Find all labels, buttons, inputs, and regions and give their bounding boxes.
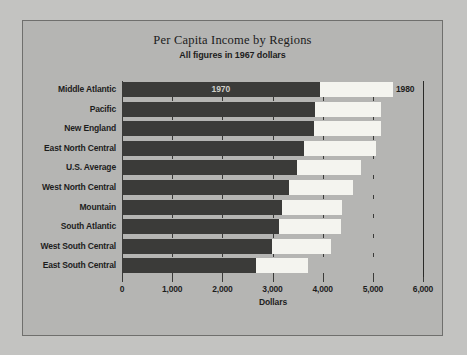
gridline-tick	[373, 214, 374, 218]
page-root: { "chart_data": { "type": "bar", "orient…	[0, 0, 467, 355]
x-tick-label: 5,000	[363, 284, 383, 294]
gridline-tick	[273, 97, 274, 101]
gridline-tick	[323, 214, 324, 218]
gridline-tick	[323, 97, 324, 101]
bar-row: Mountain	[122, 200, 424, 215]
gridline-tick	[172, 234, 173, 238]
gridline-tick	[172, 116, 173, 120]
gridline-tick	[373, 155, 374, 159]
gridline-tick	[273, 234, 274, 238]
bar-1970	[123, 219, 279, 234]
gridline-tick	[172, 136, 173, 140]
x-tick-label: 3,000	[262, 284, 282, 294]
category-label: West South Central	[40, 239, 116, 254]
legend-label-1970: 1970	[212, 82, 231, 97]
gridline-tick	[222, 116, 223, 120]
bar-row: New England	[122, 121, 424, 136]
gridline-tick	[373, 234, 374, 238]
x-axis-title: Dollars	[122, 297, 424, 307]
gridline-tick	[373, 136, 374, 140]
gridline-tick	[222, 136, 223, 140]
gridline-tick	[323, 155, 324, 159]
category-label: U.S. Average	[66, 160, 116, 175]
gridline-tick	[172, 195, 173, 199]
gridline-tick	[273, 116, 274, 120]
gridline-tick	[172, 214, 173, 218]
gridline-tick	[323, 116, 324, 120]
x-tick	[172, 277, 173, 282]
category-label: West North Central	[42, 180, 116, 195]
chart-title: Per Capita Income by Regions	[23, 33, 442, 48]
bar-row: West North Central	[122, 180, 424, 195]
category-label: South Atlantic	[61, 219, 116, 234]
x-tick-label: 6,000	[413, 284, 433, 294]
x-tick	[122, 277, 123, 282]
gridline-tick	[172, 155, 173, 159]
bar-1970	[123, 160, 297, 175]
chart-panel: Per Capita Income by Regions All figures…	[22, 20, 443, 336]
bar-1970	[123, 200, 282, 215]
gridline-tick	[323, 195, 324, 199]
category-label: New England	[64, 121, 116, 136]
gridline-tick	[222, 253, 223, 257]
gridline-tick	[273, 214, 274, 218]
bar-1970	[123, 180, 289, 195]
bar-row: Pacific	[122, 102, 424, 117]
gridline-tick	[222, 234, 223, 238]
bar-row: Middle Atlantic19701980	[122, 82, 424, 97]
gridline-tick	[172, 175, 173, 179]
plot-area: Middle Atlantic19701980PacificNew Englan…	[122, 81, 424, 277]
x-tick-label: 4,000	[313, 284, 333, 294]
category-label: Pacific	[90, 102, 116, 117]
gridline-tick	[373, 253, 374, 257]
gridline-tick	[273, 136, 274, 140]
category-label: East South Central	[43, 258, 116, 273]
category-label: East North Central	[44, 141, 116, 156]
gridline-tick	[222, 97, 223, 101]
gridline-tick	[273, 175, 274, 179]
gridline-tick	[273, 253, 274, 257]
bar-1970	[123, 102, 315, 117]
x-axis: 01,0002,0003,0004,0005,0006,000 Dollars	[122, 277, 424, 327]
gridline-tick	[273, 195, 274, 199]
category-label: Middle Atlantic	[58, 82, 116, 97]
gridline-tick	[222, 175, 223, 179]
x-tick	[323, 277, 324, 282]
bar-row: South Atlantic	[122, 219, 424, 234]
gridline-tick	[172, 253, 173, 257]
bar-1970	[123, 258, 256, 273]
bar-1970	[123, 239, 272, 254]
bar-row: East North Central	[122, 141, 424, 156]
gridline-tick	[222, 195, 223, 199]
chart-subtitle: All figures in 1967 dollars	[23, 50, 442, 60]
legend-label-1980: 1980	[396, 82, 415, 97]
gridline-tick	[323, 136, 324, 140]
gridline-tick	[323, 175, 324, 179]
bar-row: East South Central	[122, 258, 424, 273]
x-tick-label: 2,000	[212, 284, 232, 294]
x-tick	[273, 277, 274, 282]
x-tick	[222, 277, 223, 282]
bar-1970	[123, 141, 304, 156]
gridline-tick	[323, 253, 324, 257]
x-tick	[373, 277, 374, 282]
bar-row: U.S. Average	[122, 160, 424, 175]
bar-row: West South Central	[122, 239, 424, 254]
bar-1970	[123, 121, 314, 136]
gridline-tick	[373, 175, 374, 179]
gridline-tick	[373, 195, 374, 199]
gridline-tick	[373, 116, 374, 120]
x-tick-label: 1,000	[162, 284, 182, 294]
x-tick-label: 0	[120, 284, 125, 294]
category-label: Mountain	[79, 200, 116, 215]
gridline-tick	[222, 155, 223, 159]
x-tick	[423, 277, 424, 282]
gridline-tick	[273, 155, 274, 159]
gridline-tick	[222, 214, 223, 218]
gridline-tick	[373, 97, 374, 101]
gridline-tick	[323, 234, 324, 238]
gridline-tick	[172, 97, 173, 101]
